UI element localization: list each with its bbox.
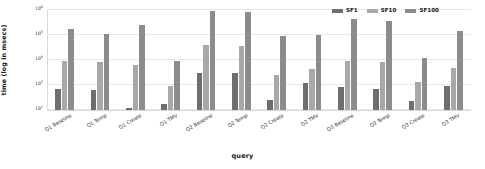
bar <box>91 90 97 110</box>
bar <box>133 65 139 110</box>
bar <box>245 12 251 110</box>
legend-item[interactable]: SF100 <box>405 8 439 14</box>
bar <box>316 35 322 110</box>
y-tick-label: 106 <box>35 6 43 12</box>
x-tick-label: Q3 Temp <box>369 113 391 128</box>
bar <box>97 62 103 110</box>
bar <box>203 45 209 110</box>
bar <box>303 83 309 110</box>
x-tick-label: Q3 TMV <box>441 113 460 127</box>
x-axis-line <box>47 110 471 111</box>
bar <box>422 58 428 110</box>
chart-figure: time (log in msecs) 102103104105106 Q1 B… <box>0 0 485 169</box>
gridline: 102 <box>47 109 471 110</box>
bar <box>457 31 463 110</box>
bar <box>415 82 421 110</box>
bar <box>280 36 286 110</box>
x-tick-label: Q2 Create <box>260 113 284 130</box>
bar <box>62 61 68 110</box>
y-tick-label: 105 <box>35 31 43 37</box>
bar <box>451 68 457 110</box>
y-tick-label: 104 <box>35 56 43 62</box>
legend-item[interactable]: SF10 <box>367 8 397 14</box>
bar <box>126 108 132 110</box>
y-tick-label: 103 <box>35 81 43 87</box>
legend-swatch-icon <box>405 9 416 13</box>
legend-item[interactable]: SF1 <box>332 8 358 14</box>
legend-label: SF10 <box>381 8 397 14</box>
bar <box>267 100 273 110</box>
legend-label: SF100 <box>419 8 439 14</box>
x-tick-label: Q1 TMV <box>159 113 178 127</box>
bar <box>444 86 450 110</box>
bar <box>345 61 351 110</box>
bar <box>239 46 245 110</box>
bar <box>68 29 74 110</box>
bar <box>380 62 386 110</box>
gridline: 104 <box>47 59 471 60</box>
x-tick-label: Q2 TMV <box>300 113 319 127</box>
legend-swatch-icon <box>367 9 378 13</box>
x-axis-title: query <box>0 152 485 160</box>
bar <box>197 73 203 110</box>
gridline: 103 <box>47 84 471 85</box>
bar <box>161 104 167 110</box>
bar <box>309 69 315 110</box>
bar <box>409 101 415 110</box>
bar <box>373 89 379 110</box>
bar <box>338 87 344 110</box>
x-tick-label: Q1 Temp <box>86 113 108 128</box>
bar <box>168 86 174 110</box>
bar <box>55 89 61 110</box>
bar <box>351 19 357 110</box>
legend-label: SF1 <box>346 8 358 14</box>
x-tick-label: Q1 Baseline <box>44 113 72 132</box>
legend-swatch-icon <box>332 9 343 13</box>
y-axis-title: time (log in msecs) <box>0 25 8 96</box>
bar <box>139 25 145 110</box>
chart-legend: SF1SF10SF100 <box>332 8 439 14</box>
bar <box>174 61 180 110</box>
plot-area: 102103104105106 <box>47 10 471 110</box>
x-tick-label: Q3 Baseline <box>326 113 354 132</box>
bar <box>386 21 392 110</box>
x-tick-label: Q3 Create <box>401 113 425 130</box>
x-tick-label: Q2 Baseline <box>185 113 213 132</box>
bar <box>210 11 216 110</box>
gridline: 105 <box>47 34 471 35</box>
x-tick-label: Q2 Temp <box>227 113 249 128</box>
bar <box>274 75 280 110</box>
bar <box>104 34 110 110</box>
bar <box>232 73 238 110</box>
y-tick-label: 102 <box>35 106 43 112</box>
x-tick-label: Q1 Create <box>118 113 142 130</box>
